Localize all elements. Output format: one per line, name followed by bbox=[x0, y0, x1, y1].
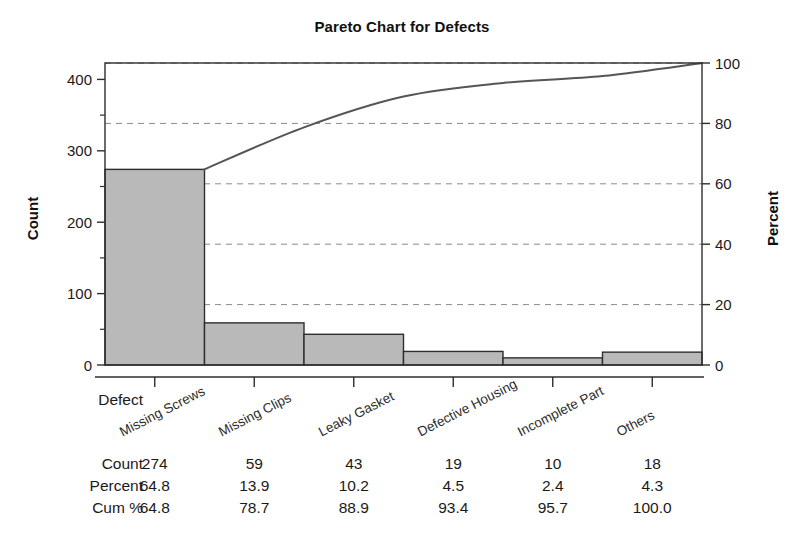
table-cell: 100.0 bbox=[604, 499, 700, 517]
table-cell: 18 bbox=[604, 455, 700, 473]
y-tick-label-left: 400 bbox=[67, 71, 92, 88]
table-cell: 2.4 bbox=[505, 477, 601, 495]
y-tick-label-left: 0 bbox=[84, 357, 92, 374]
cumulative-percent-line bbox=[205, 63, 703, 169]
y-tick-label-right: 40 bbox=[715, 236, 732, 253]
bar-incomplete-part[interactable] bbox=[503, 358, 603, 365]
table-cell: 13.9 bbox=[206, 477, 302, 495]
table-cell: 10 bbox=[505, 455, 601, 473]
y-tick-label-right: 0 bbox=[715, 357, 723, 374]
y-tick-label-left: 200 bbox=[67, 214, 92, 231]
y-tick-label-right: 80 bbox=[715, 115, 732, 132]
table-cell: 78.7 bbox=[206, 499, 302, 517]
table-cell: 4.3 bbox=[604, 477, 700, 495]
table-cell: 19 bbox=[405, 455, 501, 473]
table-cell: 10.2 bbox=[306, 477, 402, 495]
table-cell: 95.7 bbox=[505, 499, 601, 517]
y-tick-label-right: 20 bbox=[715, 296, 732, 313]
table-cell: 64.8 bbox=[107, 499, 203, 517]
x-axis bbox=[95, 377, 704, 387]
table-cell: 64.8 bbox=[107, 477, 203, 495]
table-cell: 4.5 bbox=[405, 477, 501, 495]
bar-defective-housing[interactable] bbox=[404, 351, 504, 365]
table-cell: 43 bbox=[306, 455, 402, 473]
table-cell: 274 bbox=[107, 455, 203, 473]
pareto-chart: Pareto Chart for Defects Count Percent 0… bbox=[0, 0, 804, 546]
bars bbox=[105, 169, 702, 365]
table-cell: 93.4 bbox=[405, 499, 501, 517]
y-tick-label-right: 100 bbox=[715, 55, 740, 72]
table-cell: 59 bbox=[206, 455, 302, 473]
bar-missing-screws[interactable] bbox=[105, 169, 205, 365]
y-axis-left: 0100200300400 bbox=[67, 71, 105, 374]
y-axis-right: 020406080100 bbox=[702, 55, 740, 374]
y-tick-label-left: 100 bbox=[67, 285, 92, 302]
table-cell: 88.9 bbox=[306, 499, 402, 517]
y-tick-label-left: 300 bbox=[67, 142, 92, 159]
bar-missing-clips[interactable] bbox=[205, 323, 305, 365]
bar-leaky-gasket[interactable] bbox=[304, 334, 404, 365]
y-tick-label-right: 60 bbox=[715, 175, 732, 192]
bar-others[interactable] bbox=[603, 352, 703, 365]
